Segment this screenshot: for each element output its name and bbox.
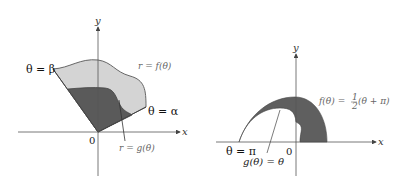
x-axis-label: x [182, 126, 188, 137]
region-between-curves [239, 97, 327, 142]
g-leader-line [267, 110, 280, 153]
origin-label: 0 [89, 135, 95, 146]
origin-label: 0 [286, 146, 292, 157]
theta-beta-label: θ = β [26, 63, 55, 76]
g-curve-label: r = g(θ) [119, 143, 155, 153]
svg-text:f(θ) =: f(θ) = [318, 96, 345, 106]
theta-alpha-label: θ = α [148, 105, 179, 118]
x-axis-label: x [378, 136, 384, 147]
y-axis-label: y [94, 15, 101, 26]
y-axis-label: y [292, 42, 299, 53]
f-curve-label: f(θ) = 1 2 (θ + π) [318, 92, 390, 111]
g-curve-label: g(θ) = θ [243, 156, 284, 167]
svg-text:2: 2 [351, 101, 358, 111]
f-curve-label: r = f(θ) [138, 61, 172, 71]
svg-text:(θ + π): (θ + π) [358, 96, 390, 106]
right-polar-region-figure: x y 0 θ = π g(θ) = θ f(θ) = 1 2 (θ + π) [216, 42, 390, 176]
left-polar-region-figure: x y 0 θ = β θ = α r = f(θ) r = g(θ) [18, 15, 188, 176]
diagram-canvas: x y 0 θ = β θ = α r = f(θ) r = g(θ) x y … [0, 0, 399, 186]
